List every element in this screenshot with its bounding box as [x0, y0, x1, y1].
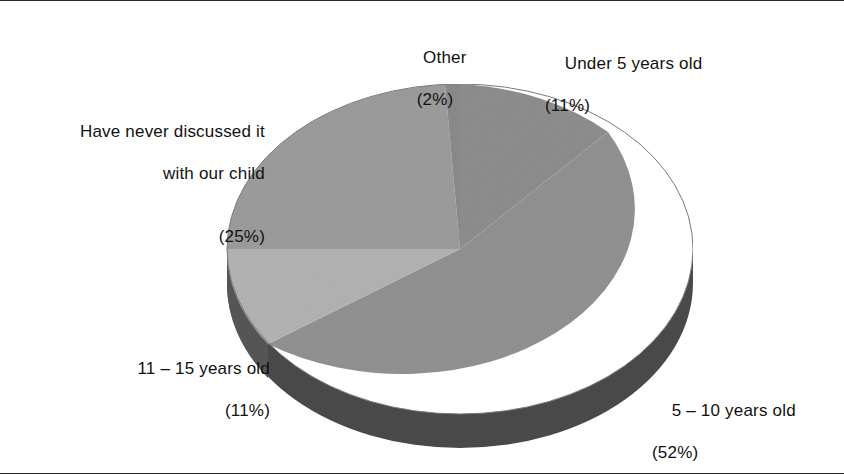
slice-label-11-15-percent: (11%) [55, 400, 270, 421]
slice-label-other-name: Other [423, 48, 467, 67]
slice-label-have-never-discussed-name: Have never discussed it [80, 122, 265, 141]
slice-label-have-never-discussed-percent: (25%) [30, 226, 265, 247]
slice-label-5-10-percent: (52%) [652, 442, 842, 463]
slice-label-11-15: 11 – 15 years old (11%) [55, 337, 270, 463]
slice-label-5-10-name: 5 – 10 years old [672, 401, 796, 420]
slice-label-other: Other (2%) [380, 26, 490, 152]
slice-label-have-never-discussed-name2: with our child [30, 163, 265, 184]
slice-label-have-never-discussed: Have never discussed it with our child (… [30, 100, 265, 289]
slice-label-11-15-name: 11 – 15 years old [137, 359, 270, 378]
slice-label-other-percent: (2%) [380, 89, 490, 110]
slice-label-under-5: Under 5 years old (11%) [545, 32, 745, 158]
slice-label-5-10: 5 – 10 years old (52%) [652, 379, 842, 474]
slice-label-under-5-name: Under 5 years old [565, 54, 703, 73]
slice-label-under-5-percent: (11%) [545, 95, 745, 116]
pie-chart-figure: Other (2%) Under 5 years old (11%) Have … [0, 0, 844, 474]
